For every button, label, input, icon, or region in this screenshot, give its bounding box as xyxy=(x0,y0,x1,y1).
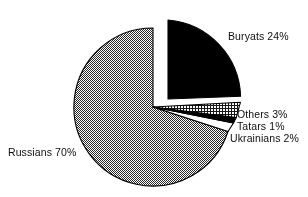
slice-label-russians: Russians 70% xyxy=(8,146,76,158)
pie-chart-figure: Buryats 24% Others 3% Tatars 1% Ukrainia… xyxy=(0,0,308,197)
slice-label-ukrainians: Ukrainians 2% xyxy=(230,132,299,144)
slice-label-others: Others 3% xyxy=(237,108,288,120)
slice-label-buryats: Buryats 24% xyxy=(228,30,289,42)
slice-label-tatars: Tatars 1% xyxy=(237,120,285,132)
